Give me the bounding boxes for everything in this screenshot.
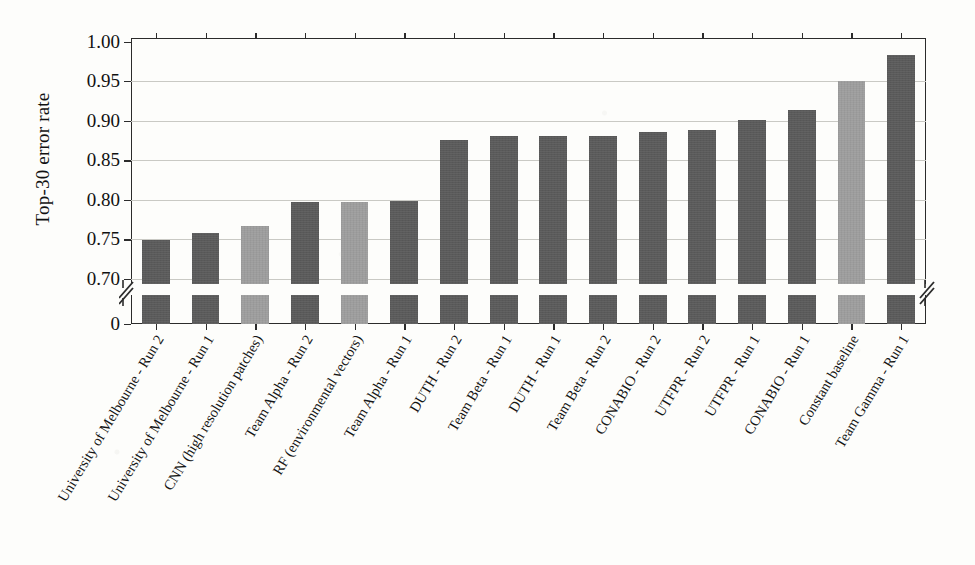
bar-chart-figure: Top-30 error rate 0.700.750.800.850.900.…	[0, 0, 975, 565]
x-axis-tick-label: CNN (high resolution patches)	[160, 332, 266, 494]
x-axis-tick-label: RF (environmental vectors)	[269, 332, 366, 478]
x-axis-tick-labels: University of Melbourne - Run 2Universit…	[0, 0, 975, 565]
x-axis-tick-label: DUTH - Run 2	[406, 332, 466, 416]
